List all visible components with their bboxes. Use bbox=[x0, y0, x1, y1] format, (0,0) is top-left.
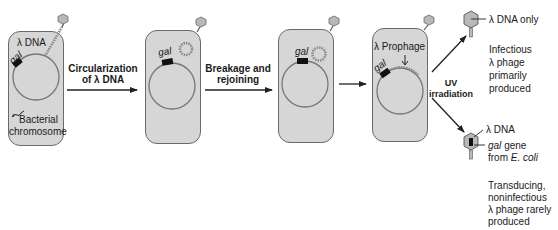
step-1-label: Circularization of λ DNA bbox=[68, 63, 138, 85]
prophage-label: λ Prophage bbox=[374, 41, 425, 52]
gal-gene-label: gal gene from E. coli bbox=[488, 140, 538, 164]
lambda-dna-label: λ DNA bbox=[17, 37, 46, 48]
transducing-phage-icon bbox=[464, 130, 485, 159]
step-2-label: Breakage and rejoining bbox=[203, 63, 273, 85]
cell-3-contents bbox=[282, 16, 339, 107]
lambda-dna-label-bottom: λ DNA bbox=[486, 124, 515, 135]
gal-label-cell-2: gal bbox=[157, 45, 172, 58]
phage-head-icon bbox=[329, 16, 339, 26]
circular-lambda-dna bbox=[313, 48, 326, 61]
uv-arrow-down bbox=[432, 98, 464, 132]
phage-head-icon bbox=[58, 14, 68, 24]
infectious-outcome-text: Infectious λ phage primarily produced bbox=[489, 43, 532, 95]
bacterial-label: Bacterial bbox=[19, 114, 58, 125]
lambda-dna-only-label: λ DNA only bbox=[489, 14, 538, 25]
transducing-outcome-text: Transducing, noninfectious λ phage rarel… bbox=[488, 180, 551, 228]
uv-arrow-up bbox=[432, 36, 466, 72]
phage-head-icon bbox=[196, 17, 206, 27]
step-3-label: UV irradiation bbox=[428, 78, 474, 100]
chromosome-label: chromosome bbox=[9, 126, 67, 137]
phage-head-icon bbox=[424, 15, 434, 25]
lambda-dna-strand bbox=[45, 27, 62, 56]
diagram-graphics bbox=[0, 0, 558, 230]
circular-lambda-dna bbox=[180, 43, 192, 55]
gal-label-cell-3: gal bbox=[295, 46, 308, 57]
cell-1-contents bbox=[12, 14, 68, 117]
cell-2-contents bbox=[149, 17, 206, 109]
infectious-phage-icon bbox=[464, 11, 486, 37]
